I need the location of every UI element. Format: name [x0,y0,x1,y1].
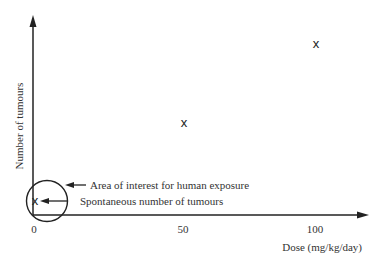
arrow-left-icon [65,182,74,188]
arrow-left-icon [40,198,49,204]
y-axis-label: Number of tumours [13,83,25,170]
chart: Number of tumours 0 50 100 Dose (mg/kg/d… [0,0,381,259]
data-point-dose-100: x [313,36,320,51]
y-axis-arrow-icon [30,15,37,27]
x-axis-arrow-icon [357,212,369,219]
x-axis-label: Dose (mg/kg/day) [282,241,362,254]
data-point-dose-50: x [181,115,188,130]
x-tick-50: 50 [178,223,190,235]
x-tick-0: 0 [31,223,37,235]
annotation-area-of-interest: Area of interest for human exposure [90,179,249,191]
annotation-spontaneous: Spontaneous number of tumours [80,195,223,207]
x-tick-100: 100 [307,223,324,235]
data-point-dose-0: x [32,193,39,208]
